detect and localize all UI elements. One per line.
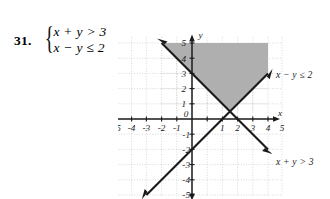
y-tick--2: -2 xyxy=(182,145,190,155)
y-tick--3: -3 xyxy=(182,160,190,170)
x-tick-2: 2 xyxy=(235,123,240,133)
x-tick--4: -4 xyxy=(128,123,136,133)
system-of-inequalities: { x + y > 3 x − y ≤ 2 xyxy=(39,24,106,55)
x-tick-4: 4 xyxy=(266,123,271,133)
x-tick-3: 3 xyxy=(250,123,256,133)
coordinate-graph: -5 -4 -3 -2 -1 1 2 3 4 5 0 5 4 3 2 1 -1 xyxy=(118,6,330,199)
left-brace: { xyxy=(45,24,54,55)
x-tick--5: -5 xyxy=(118,123,121,133)
y-tick-5: 5 xyxy=(181,38,186,48)
boundary-label-x-minus-y: x − y ≤ 2 xyxy=(275,69,312,80)
problem-statement: 31. { x + y > 3 x − y ≤ 2 xyxy=(14,24,107,55)
exercise-figure: 31. { x + y > 3 x − y ≤ 2 xyxy=(0,0,330,199)
y-tick-4: 4 xyxy=(181,54,186,64)
x-tick--3: -3 xyxy=(143,123,151,133)
inequality-2: x − y ≤ 2 xyxy=(53,41,106,55)
x-tick--1: -1 xyxy=(173,123,181,133)
y-tick--1: -1 xyxy=(182,130,190,140)
y-tick-1: 1 xyxy=(181,99,186,109)
origin-label: 0 xyxy=(184,109,189,119)
boundary-label-x-plus-y: x + y > 3 xyxy=(275,156,314,167)
problem-number: 31. xyxy=(14,24,31,48)
x-tick-1: 1 xyxy=(220,123,225,133)
y-tick-2: 2 xyxy=(181,84,186,94)
graph-canvas: -5 -4 -3 -2 -1 1 2 3 4 5 0 5 4 3 2 1 -1 xyxy=(118,6,330,199)
x-tick-5: 5 xyxy=(280,123,285,133)
y-tick--4: -4 xyxy=(182,175,190,185)
y-tick--5: -5 xyxy=(182,190,190,199)
inequality-list: x + y > 3 x − y ≤ 2 xyxy=(53,24,106,55)
inequality-1: x + y > 3 xyxy=(53,25,106,39)
x-tick--2: -2 xyxy=(158,123,166,133)
y-tick-3: 3 xyxy=(180,69,186,79)
